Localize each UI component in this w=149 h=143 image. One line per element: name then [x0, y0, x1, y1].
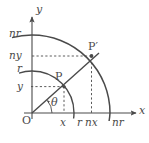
- geometry-figure: y x O nr ny r y x r nx nr P P′ θ: [0, 0, 149, 143]
- y-axis-label: y: [36, 4, 42, 15]
- x-tick-nr: nr: [112, 117, 124, 128]
- x-tick-x: x: [60, 117, 66, 128]
- x-tick-nx: nx: [85, 117, 98, 128]
- y-tick-ny: ny: [9, 50, 22, 61]
- y-tick-r: r: [17, 63, 22, 74]
- x-tick-r: r: [77, 117, 82, 128]
- point-pprime-label: P′: [88, 41, 98, 52]
- point-pprime-marker: [90, 54, 94, 58]
- point-p-label: P: [55, 71, 62, 82]
- origin-label: O: [22, 115, 31, 126]
- angle-theta-label: θ: [51, 97, 58, 108]
- y-tick-y: y: [17, 81, 23, 92]
- outer-arc-stub-x: [109, 113, 110, 121]
- point-p-marker: [62, 85, 65, 88]
- radial-ray: [32, 53, 99, 113]
- y-tick-nr: nr: [9, 28, 21, 39]
- outer-arc: [32, 35, 110, 113]
- x-axis-label: x: [139, 105, 145, 116]
